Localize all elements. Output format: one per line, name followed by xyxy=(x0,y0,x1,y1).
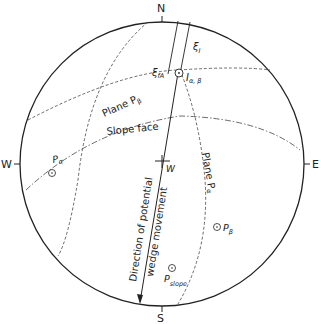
xi-line-right xyxy=(180,22,190,74)
plane-alpha-great-circle xyxy=(58,22,148,256)
slope-face-label: Slope face xyxy=(106,121,159,137)
xi-i-label: ξI xyxy=(192,41,201,55)
xi-line-left xyxy=(168,21,178,74)
plane-alpha-right-arc xyxy=(178,70,206,304)
pole-beta-dot xyxy=(216,226,218,228)
north-label: N xyxy=(157,2,165,15)
plane-beta-label: Plane Pβ xyxy=(100,92,143,120)
pole-alpha-dot xyxy=(51,172,53,174)
xi-fa-label: ξfA xyxy=(151,67,164,80)
w-marker-label: W xyxy=(166,164,176,174)
east-label: E xyxy=(312,158,319,171)
south-label: S xyxy=(157,312,164,324)
plane-beta-great-circle xyxy=(28,68,270,120)
direction-arrowhead xyxy=(137,294,143,304)
pole-slope-label: Pslope xyxy=(164,273,187,288)
pole-beta-label: Pβ xyxy=(223,222,233,236)
pole-alpha-label: Pα xyxy=(51,152,64,167)
intersection-label: Iα, β xyxy=(186,72,202,85)
intersection-dot xyxy=(178,72,180,74)
plane-alpha-label: Plane Pα xyxy=(198,151,218,194)
stereonet-diagram: N S W E Plane Pβ Slope face Plane Pα Pα … xyxy=(0,0,321,324)
slope-face-great-circle xyxy=(26,116,300,190)
pole-slope-dot xyxy=(171,267,173,269)
west-label: W xyxy=(1,158,12,171)
